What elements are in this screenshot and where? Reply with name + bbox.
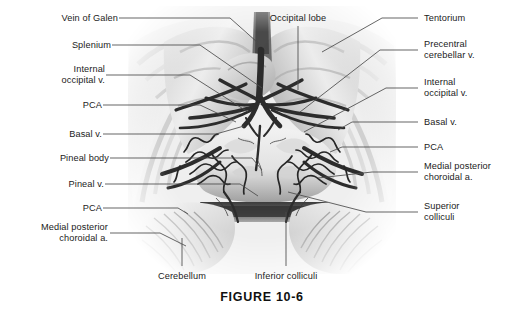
label-pca-lower-left: PCA (8, 203, 102, 214)
label-superior-colliculi: Superior colliculi (424, 201, 520, 223)
label-pca-right: PCA (424, 142, 520, 153)
label-occipital-lobe: Occipital lobe (248, 13, 348, 24)
label-internal-occipital-v-left: Internal occipital v. (8, 64, 105, 86)
label-precentral-cerebellar-v: Precentral cerebellar v. (424, 39, 520, 61)
label-basal-v-left: Basal v. (8, 129, 102, 140)
label-medial-posterior-choroidal-a-left: Medial posterior choroidal a. (2, 222, 108, 244)
label-pineal-body: Pineal body (8, 153, 109, 164)
figure-10-6: Vein of Galen Splenium Internal occipita… (0, 0, 524, 319)
label-pineal-v: Pineal v. (8, 179, 104, 190)
figure-caption: FIGURE 10-6 (0, 290, 524, 304)
anatomical-illustration (128, 6, 396, 274)
label-pca-upper-left: PCA (8, 100, 102, 111)
label-tentorium: Tentorium (424, 13, 520, 24)
label-vein-of-galen: Vein of Galen (8, 13, 118, 24)
label-medial-posterior-choroidal-a-right: Medial posterior choroidal a. (424, 161, 524, 183)
label-inferior-colliculi: Inferior colliculi (238, 271, 334, 282)
label-internal-occipital-v-right: Internal occipital v. (424, 77, 520, 99)
label-cerebellum: Cerebellum (140, 271, 224, 282)
label-splenium: Splenium (8, 40, 111, 51)
label-basal-v-right: Basal v. (424, 117, 520, 128)
